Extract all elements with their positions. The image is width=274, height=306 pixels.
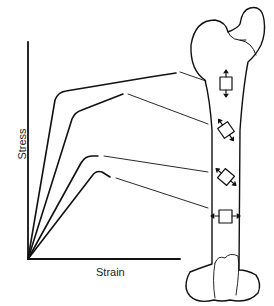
greater-trochanter-line (240, 40, 256, 55)
stress-element-2 (214, 116, 239, 144)
femoral-neck-line (228, 32, 246, 40)
condyle-line-2 (214, 263, 216, 298)
y-axis-label: Stress (16, 124, 28, 164)
curve-3 (28, 156, 98, 259)
stress-element-3 (212, 164, 240, 190)
stress-element-4 (211, 210, 240, 223)
condyle-line (215, 254, 239, 295)
leader-lines (104, 72, 208, 208)
diagram-canvas (0, 0, 274, 306)
x-axis-label: Strain (96, 266, 125, 278)
stress-element-1 (220, 70, 232, 97)
